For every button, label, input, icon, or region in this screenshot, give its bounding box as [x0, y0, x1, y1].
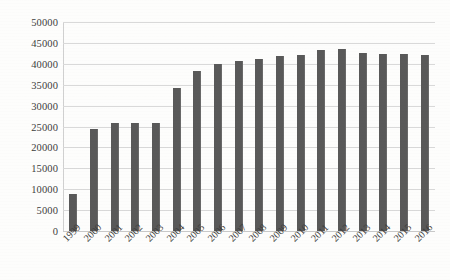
bar-slot — [394, 22, 415, 231]
x-label-slot: 2014 — [373, 233, 394, 280]
bar-2011[interactable] — [317, 50, 325, 231]
x-label-slot: 2001 — [104, 233, 125, 280]
bar-series — [63, 22, 435, 231]
bar-2009[interactable] — [276, 56, 284, 231]
bar-2000[interactable] — [90, 129, 98, 231]
bar-2004[interactable] — [173, 88, 181, 231]
bar-slot — [352, 22, 373, 231]
y-tick-label: 15000 — [31, 163, 58, 174]
x-label-slot: 2010 — [290, 233, 311, 280]
bar-2006[interactable] — [214, 64, 222, 231]
y-tick-label: 20000 — [31, 142, 58, 153]
x-label-slot: 2003 — [146, 233, 167, 280]
bar-slot — [414, 22, 435, 231]
bar-2016[interactable] — [421, 55, 429, 231]
bar-slot — [104, 22, 125, 231]
y-tick-label: 25000 — [31, 121, 58, 132]
bar-slot — [332, 22, 353, 231]
bar-slot — [125, 22, 146, 231]
x-label-slot: 2011 — [311, 233, 332, 280]
bar-slot — [166, 22, 187, 231]
x-label-slot: 1999 — [63, 233, 84, 280]
x-label-slot: 2005 — [187, 233, 208, 280]
bar-2013[interactable] — [359, 53, 367, 231]
bar-2008[interactable] — [255, 59, 263, 231]
bar-2014[interactable] — [379, 54, 387, 231]
x-label-slot: 2013 — [352, 233, 373, 280]
x-label-slot: 2004 — [166, 233, 187, 280]
x-label-slot: 2008 — [249, 233, 270, 280]
bar-slot — [63, 22, 84, 231]
x-label-slot: 2000 — [84, 233, 105, 280]
bar-slot — [373, 22, 394, 231]
bar-2007[interactable] — [235, 61, 243, 231]
bar-slot — [84, 22, 105, 231]
bar-slot — [208, 22, 229, 231]
y-tick-label: 5000 — [37, 205, 58, 216]
y-tick-label: 10000 — [31, 184, 58, 195]
bar-slot — [228, 22, 249, 231]
bar-slot — [270, 22, 291, 231]
x-label-slot: 2002 — [125, 233, 146, 280]
bar-2005[interactable] — [193, 71, 201, 231]
x-label-slot: 2006 — [208, 233, 229, 280]
bar-slot — [249, 22, 270, 231]
x-label-slot: 2012 — [332, 233, 353, 280]
y-tick-label: 40000 — [31, 58, 58, 69]
bar-slot — [290, 22, 311, 231]
bar-2015[interactable] — [400, 54, 408, 231]
y-axis-tick-labels: 0500010000150002000025000300003500040000… — [0, 22, 58, 231]
y-tick-label: 0 — [53, 226, 58, 237]
y-tick-label: 50000 — [31, 17, 58, 28]
y-tick-label: 35000 — [31, 79, 58, 90]
bar-2012[interactable] — [338, 49, 346, 231]
x-label-slot: 2009 — [270, 233, 291, 280]
bar-2003[interactable] — [152, 123, 160, 231]
bar-2002[interactable] — [131, 123, 139, 231]
bar-slot — [187, 22, 208, 231]
y-tick-label: 45000 — [31, 37, 58, 48]
x-axis-category-labels: 1999200020012002200320042005200620072008… — [63, 233, 435, 280]
bar-chart: 0500010000150002000025000300003500040000… — [0, 0, 450, 280]
plot-area — [63, 22, 435, 231]
bar-slot — [311, 22, 332, 231]
bar-slot — [146, 22, 167, 231]
x-label-slot: 2016 — [414, 233, 435, 280]
x-label-slot: 2007 — [228, 233, 249, 280]
x-label-slot: 2015 — [394, 233, 415, 280]
y-tick-label: 30000 — [31, 100, 58, 111]
bar-2010[interactable] — [297, 55, 305, 231]
bar-2001[interactable] — [111, 123, 119, 231]
